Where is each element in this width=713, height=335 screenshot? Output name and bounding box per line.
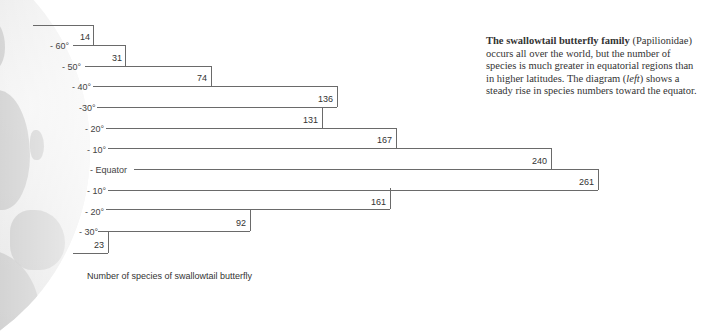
bar-value: 136: [293, 94, 333, 104]
bar-edge: [322, 107, 323, 128]
latitude-line: [108, 148, 551, 149]
bar-value: 31: [82, 53, 122, 63]
latitude-label: -30°: [79, 103, 96, 113]
chart-caption: Number of species of swallowtail butterf…: [87, 271, 252, 281]
bar-value: 167: [352, 135, 392, 145]
bar-value: 261: [554, 177, 594, 187]
latitude-line: [93, 86, 337, 87]
latitude-label: - 30°: [79, 227, 98, 237]
bar-top-line: [33, 25, 93, 26]
bar-value: 131: [278, 115, 318, 125]
bar-value: 92: [206, 218, 246, 228]
equator-line: [134, 169, 598, 170]
bar-value: 23: [64, 240, 104, 250]
latitude-label: - 50°: [62, 62, 81, 72]
bar-value: 74: [167, 73, 207, 83]
bar-edge: [108, 231, 109, 253]
bar-edge: [390, 188, 391, 209]
bar-edge: [93, 25, 94, 45]
latitude-label: - 20°: [85, 207, 104, 217]
description-text: The swallowtail butterfly family (Papili…: [486, 35, 701, 98]
bar-edge: [125, 45, 126, 66]
latitude-label: - 60°: [50, 41, 69, 51]
bar-value: 161: [346, 197, 386, 207]
globe-illustration: [0, 0, 90, 335]
description-italic: left: [626, 73, 639, 84]
bar-edge: [551, 148, 552, 169]
latitude-line: [73, 45, 125, 46]
bar-edge: [337, 86, 338, 107]
latitude-label: - 40°: [72, 82, 91, 92]
latitude-line: [97, 107, 337, 108]
bar-value: 240: [507, 156, 547, 166]
latitude-line: [106, 128, 396, 129]
latitude-label: - 20°: [85, 124, 104, 134]
latitude-label: - 10°: [87, 186, 106, 196]
latitude-label-equator: - Equator: [90, 165, 127, 175]
bar-edge: [211, 66, 212, 86]
bar-bottom-line: [73, 253, 108, 254]
latitude-line: [98, 231, 250, 232]
latitude-line: [106, 209, 390, 210]
globe-fade: [0, 0, 90, 335]
latitude-label: - 10°: [87, 145, 106, 155]
bar-edge: [396, 128, 397, 148]
bar-edge: [250, 209, 251, 231]
bar-edge: [598, 169, 599, 190]
latitude-line: [85, 66, 211, 67]
latitude-line: [108, 190, 598, 191]
description-title: The swallowtail butterfly family: [486, 35, 630, 46]
